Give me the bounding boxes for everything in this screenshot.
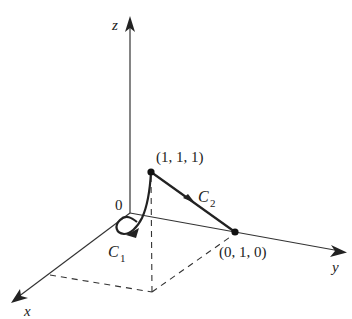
z-axis [125, 16, 135, 213]
origin-label: 0 [115, 197, 123, 213]
x-axis-label: x [23, 303, 31, 319]
z-axis-label: z [111, 17, 118, 33]
point-label-0-1-0: (0, 1, 0) [219, 244, 267, 261]
svg-text:2: 2 [210, 197, 216, 209]
c1-label: C 1 [108, 243, 126, 264]
c2-label: C 2 [198, 188, 216, 209]
point-label-1-1-1: (1, 1, 1) [156, 149, 204, 166]
y-axis-label: y [330, 259, 339, 275]
vector-diagram: z y x 0 (1, 1, 1) (0, 1, 0) C 2 C 1 [0, 0, 352, 319]
point-1-1-1 [147, 168, 154, 175]
svg-text:1: 1 [120, 252, 126, 264]
svg-text:C: C [198, 188, 209, 205]
point-0-1-0 [231, 228, 238, 235]
svg-text:C: C [108, 243, 119, 260]
y-axis-arrow-icon [330, 245, 347, 257]
curve-c2 [151, 172, 235, 232]
